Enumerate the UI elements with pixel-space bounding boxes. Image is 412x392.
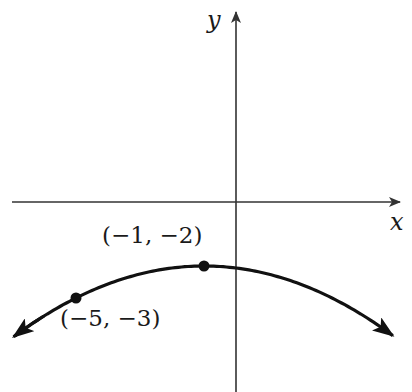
y-axis-label: y (207, 6, 221, 34)
vertex-point (199, 261, 210, 272)
plot-area (0, 0, 412, 392)
graph: y x (−1, −2) (−5, −3) (0, 0, 412, 392)
vertex-label: (−1, −2) (102, 222, 202, 248)
point-label: (−5, −3) (60, 305, 160, 331)
curve-left-arrow (14, 316, 44, 337)
point-minus5-minus3 (71, 293, 82, 304)
x-axis-label: x (390, 208, 404, 236)
